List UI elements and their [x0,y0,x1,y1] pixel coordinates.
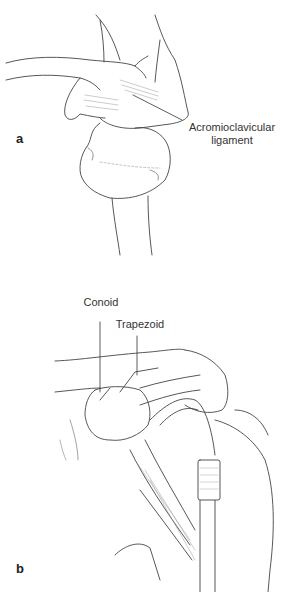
label-line-2: ligament [182,134,282,147]
acromioclavicular-ligament-label: Acromioclavicular ligament [182,121,282,147]
panel-b-drawing [55,322,273,592]
anatomy-illustration [0,0,292,592]
panel-a-drawing [6,15,188,255]
panel-letter-a: a [16,131,23,146]
trapezoid-label: Trapezoid [112,318,168,331]
panel-letter-b: b [16,561,24,576]
label-line-1: Acromioclavicular [182,121,282,134]
conoid-label: Conoid [80,296,122,309]
